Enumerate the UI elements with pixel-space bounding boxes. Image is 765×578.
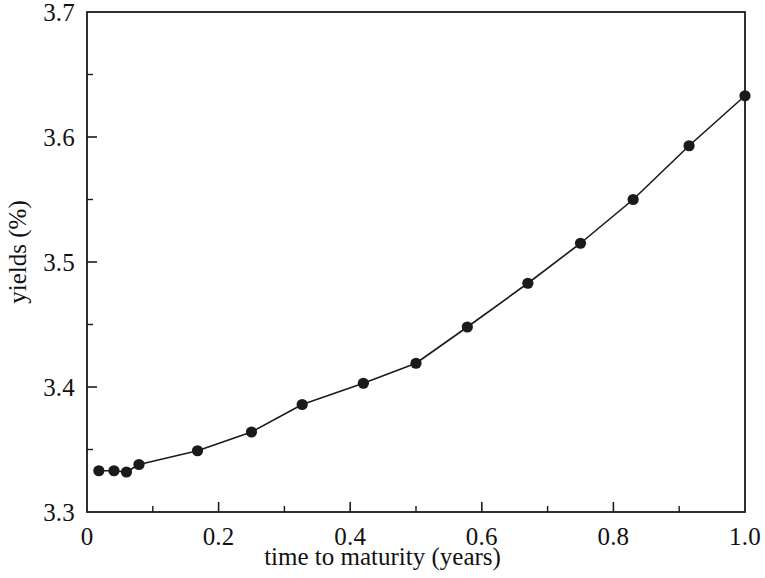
y-tick-label: 3.4 — [10, 375, 75, 400]
data-point — [739, 90, 750, 101]
data-point — [358, 378, 369, 389]
plot-canvas — [0, 0, 765, 578]
data-point — [192, 445, 203, 456]
data-point — [575, 238, 586, 249]
data-point — [121, 466, 132, 477]
y-tick-label: 3.3 — [10, 500, 75, 525]
x-axis-title: time to maturity (years) — [0, 543, 765, 571]
y-tick-label: 3.7 — [10, 0, 75, 25]
data-point — [410, 358, 421, 369]
data-point — [683, 140, 694, 151]
data-point — [93, 465, 104, 476]
y-axis-major-ticks — [87, 137, 97, 387]
data-point — [462, 321, 473, 332]
data-point — [133, 459, 144, 470]
yield-curve-markers — [93, 90, 750, 477]
y-axis-title: yields (%) — [4, 172, 32, 332]
data-point — [297, 399, 308, 410]
data-point — [522, 278, 533, 289]
yield-curve-figure: 3.33.43.53.63.7 00.20.40.60.81.0 time to… — [0, 0, 765, 578]
axes-frame — [87, 12, 745, 512]
data-point — [246, 426, 257, 437]
data-point — [628, 194, 639, 205]
data-point — [108, 465, 119, 476]
yield-curve-line — [99, 96, 745, 472]
y-tick-label: 3.6 — [10, 125, 75, 150]
